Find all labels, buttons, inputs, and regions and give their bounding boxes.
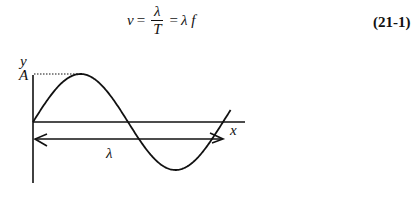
x-axis-label: x — [229, 122, 237, 138]
wavelength-label: λ — [105, 145, 113, 161]
wavelength-arrow-left-head — [35, 134, 47, 146]
amplitude-label: A — [18, 67, 29, 83]
wave-diagram: y A x λ — [0, 0, 420, 197]
